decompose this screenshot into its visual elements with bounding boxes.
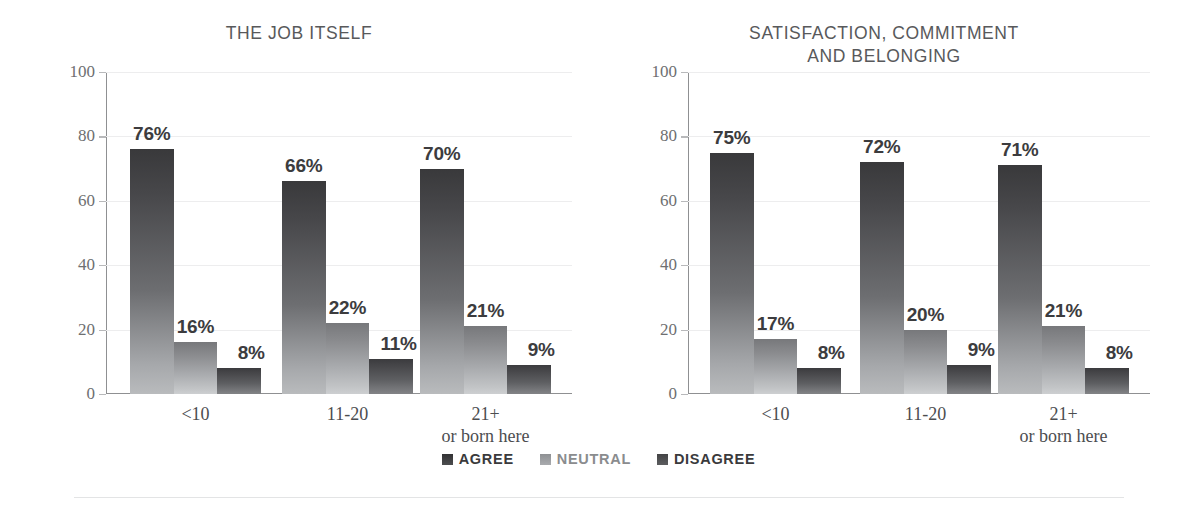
y-tick-mark bbox=[99, 394, 106, 395]
x-category-label: 21+ or born here bbox=[420, 403, 551, 447]
bar-value-label: 9% bbox=[528, 339, 555, 361]
bar-value-label: 16% bbox=[177, 316, 214, 338]
legend-label: AGREE bbox=[459, 451, 514, 467]
bar-disagree[interactable]: 8% bbox=[217, 368, 261, 394]
y-tick-label: 20 bbox=[660, 320, 677, 340]
legend-item-neutral[interactable]: NEUTRAL bbox=[540, 451, 631, 467]
chart-panel-job-itself: THE JOB ITSELF 020406080100 76%16%8%<106… bbox=[0, 0, 598, 470]
bar-agree[interactable]: 66% bbox=[282, 181, 326, 394]
bar-value-label: 8% bbox=[238, 342, 265, 364]
y-tick-mark bbox=[99, 201, 106, 202]
bar-value-label: 66% bbox=[285, 155, 322, 177]
bar-agree[interactable]: 75% bbox=[710, 153, 754, 395]
bar-value-label: 8% bbox=[818, 342, 845, 364]
bar-value-label: 70% bbox=[423, 143, 460, 165]
x-category-label: <10 bbox=[130, 403, 261, 425]
bar-agree[interactable]: 76% bbox=[130, 149, 174, 394]
y-tick-label: 40 bbox=[78, 255, 95, 275]
y-tick-mark bbox=[681, 72, 688, 73]
bar-neutral[interactable]: 20% bbox=[904, 330, 948, 394]
bar-agree[interactable]: 71% bbox=[998, 165, 1042, 394]
bar-neutral[interactable]: 22% bbox=[326, 323, 370, 394]
chart-title-left: THE JOB ITSELF bbox=[0, 22, 598, 45]
y-tick-label: 20 bbox=[78, 320, 95, 340]
square-swatch-icon bbox=[540, 454, 551, 465]
bar-disagree[interactable]: 11% bbox=[369, 359, 413, 394]
bottom-divider bbox=[74, 497, 1124, 498]
bar-disagree[interactable]: 8% bbox=[1085, 368, 1129, 394]
bar-group: 70%21%9%21+ or born here bbox=[420, 72, 551, 394]
two-chart-figure: THE JOB ITSELF 020406080100 76%16%8%<106… bbox=[0, 0, 1197, 515]
bar-agree[interactable]: 72% bbox=[860, 162, 904, 394]
y-tick-mark bbox=[99, 136, 106, 137]
bar-neutral[interactable]: 16% bbox=[174, 342, 218, 394]
y-tick-mark bbox=[681, 394, 688, 395]
plot-area-left: 020406080100 76%16%8%<1066%22%11%11-2070… bbox=[106, 72, 572, 394]
bar-neutral[interactable]: 21% bbox=[1042, 326, 1086, 394]
square-swatch-icon bbox=[657, 454, 668, 465]
plot-area-right: 020406080100 75%17%8%<1072%20%9%11-2071%… bbox=[688, 72, 1150, 394]
chart-legend: AGREENEUTRALDISAGREE bbox=[0, 451, 1197, 467]
bar-value-label: 8% bbox=[1106, 342, 1133, 364]
x-category-label: 11-20 bbox=[282, 403, 413, 425]
legend-item-agree[interactable]: AGREE bbox=[442, 451, 514, 467]
bar-value-label: 20% bbox=[907, 304, 944, 326]
bar-agree[interactable]: 70% bbox=[420, 169, 464, 394]
x-category-label: 21+ or born here bbox=[998, 403, 1129, 447]
y-axis-line-left bbox=[106, 72, 107, 394]
y-tick-mark bbox=[681, 201, 688, 202]
legend-label: DISAGREE bbox=[674, 451, 755, 467]
y-tick-label: 40 bbox=[660, 255, 677, 275]
bar-group: 75%17%8%<10 bbox=[710, 72, 841, 394]
y-tick-label: 100 bbox=[652, 62, 678, 82]
y-tick-label: 60 bbox=[78, 191, 95, 211]
bar-value-label: 17% bbox=[757, 313, 794, 335]
y-axis-line-right bbox=[688, 72, 689, 394]
bar-disagree[interactable]: 9% bbox=[507, 365, 551, 394]
bar-value-label: 11% bbox=[380, 333, 416, 355]
bar-neutral[interactable]: 17% bbox=[754, 339, 798, 394]
bar-value-label: 76% bbox=[133, 123, 170, 145]
legend-item-disagree[interactable]: DISAGREE bbox=[657, 451, 755, 467]
bar-value-label: 21% bbox=[467, 300, 504, 322]
y-tick-label: 100 bbox=[70, 62, 96, 82]
y-tick-mark bbox=[99, 330, 106, 331]
y-tick-label: 0 bbox=[669, 384, 678, 404]
square-swatch-icon bbox=[442, 454, 453, 465]
bar-disagree[interactable]: 8% bbox=[797, 368, 841, 394]
y-tick-label: 0 bbox=[87, 384, 96, 404]
x-category-label: <10 bbox=[710, 403, 841, 425]
legend-label: NEUTRAL bbox=[557, 451, 631, 467]
bar-value-label: 22% bbox=[329, 297, 366, 319]
y-tick-mark bbox=[99, 72, 106, 73]
y-tick-mark bbox=[681, 265, 688, 266]
y-tick-mark bbox=[681, 136, 688, 137]
bar-value-label: 21% bbox=[1045, 300, 1082, 322]
chart-panel-satisfaction: SATISFACTION, COMMITMENT AND BELONGING 0… bbox=[585, 0, 1183, 470]
bar-value-label: 71% bbox=[1001, 139, 1038, 161]
bar-group: 72%20%9%11-20 bbox=[860, 72, 991, 394]
bar-disagree[interactable]: 9% bbox=[947, 365, 991, 394]
y-tick-label: 80 bbox=[78, 126, 95, 146]
bar-group: 66%22%11%11-20 bbox=[282, 72, 413, 394]
bar-value-label: 72% bbox=[863, 136, 900, 158]
y-tick-label: 80 bbox=[660, 126, 677, 146]
bar-group: 71%21%8%21+ or born here bbox=[998, 72, 1129, 394]
bar-neutral[interactable]: 21% bbox=[464, 326, 508, 394]
y-tick-mark bbox=[99, 265, 106, 266]
y-tick-mark bbox=[681, 330, 688, 331]
bar-value-label: 9% bbox=[968, 339, 995, 361]
y-tick-label: 60 bbox=[660, 191, 677, 211]
bar-value-label: 75% bbox=[713, 127, 750, 149]
x-category-label: 11-20 bbox=[860, 403, 991, 425]
bar-group: 76%16%8%<10 bbox=[130, 72, 261, 394]
